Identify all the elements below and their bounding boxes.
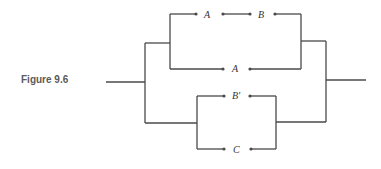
switch-label-a-top: A xyxy=(203,9,211,20)
switch-label-c: C xyxy=(233,144,240,155)
circuit-diagram: A B A B' C xyxy=(0,0,381,169)
switch-label-b-prime: B' xyxy=(232,90,241,101)
switch-label-b-top: B xyxy=(258,9,264,20)
switch-label-a-middle: A xyxy=(231,63,239,74)
